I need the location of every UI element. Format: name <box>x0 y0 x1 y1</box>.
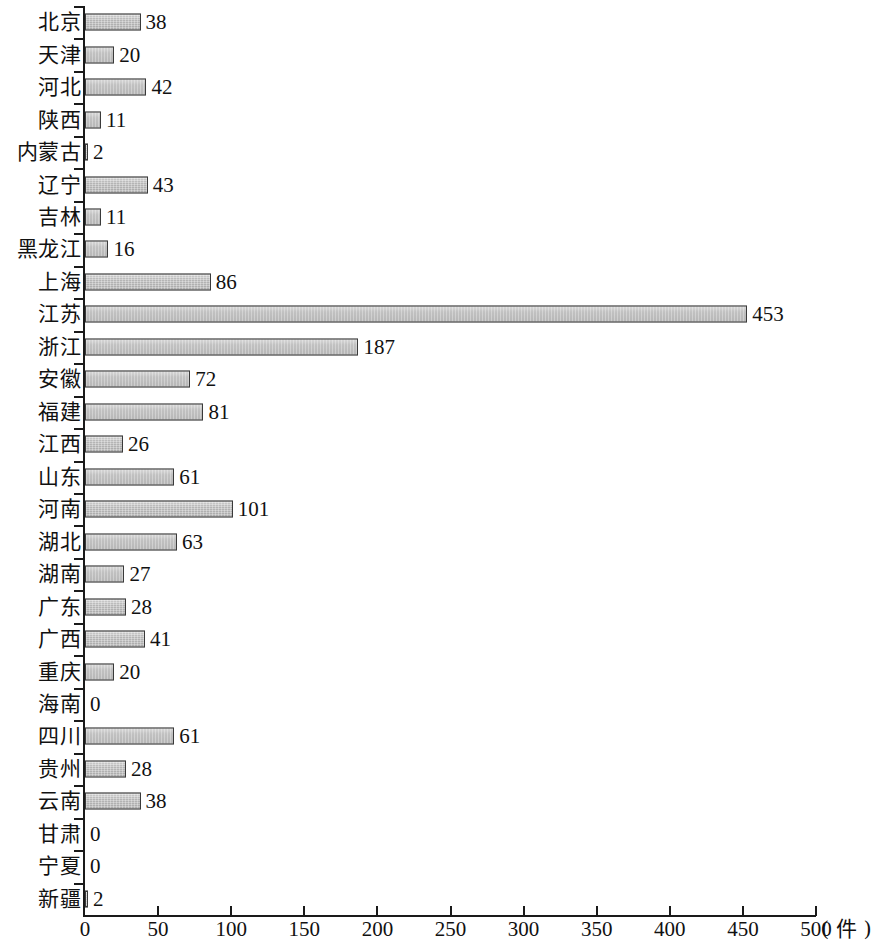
x-axis-tick <box>303 906 305 916</box>
x-axis-tick-label: 150 <box>289 919 321 940</box>
bar-chart: 北京38天津20河北42陕西11内蒙古2辽宁43吉林11黑龙江16上海86江苏4… <box>0 0 876 946</box>
x-axis-tick <box>376 906 378 916</box>
x-axis-tick-label: 100 <box>215 919 247 940</box>
x-axis-tick-label: 450 <box>727 919 759 940</box>
x-axis-tick-label: 300 <box>508 919 540 940</box>
x-axis-tick <box>596 906 598 916</box>
x-axis-tick <box>742 906 744 916</box>
x-axis-tick-label: 400 <box>654 919 686 940</box>
x-axis-tick <box>230 906 232 916</box>
x-axis-tick-label: 350 <box>581 919 613 940</box>
x-axis-tick-label: 50 <box>148 919 169 940</box>
x-axis-tick-label: 250 <box>435 919 467 940</box>
x-axis-tick <box>523 906 525 916</box>
x-axis-ticks: ( 件 ) 050100150200250300350400450500 <box>0 0 876 946</box>
x-axis-tick <box>157 906 159 916</box>
x-axis-tick <box>669 906 671 916</box>
x-axis-tick <box>450 906 452 916</box>
x-axis-tick <box>815 906 817 916</box>
x-axis-tick-label: 200 <box>362 919 394 940</box>
x-axis-tick-label: 0 <box>80 919 91 940</box>
x-axis-tick-label: 500 <box>800 919 832 940</box>
